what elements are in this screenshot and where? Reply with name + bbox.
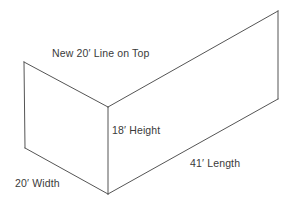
label-top-line: New 20′ Line on Top (52, 47, 149, 59)
label-height: 18′ Height (112, 124, 160, 136)
diagram-canvas: New 20′ Line on Top 18′ Height 41′ Lengt… (0, 0, 293, 208)
edge-left-top-diagonal (24, 62, 108, 107)
edge-left-front-vertical (24, 62, 25, 148)
label-width: 20′ Width (15, 177, 60, 189)
label-length: 41′ Length (190, 157, 240, 169)
edge-right-top-diagonal (108, 11, 278, 107)
edge-right-bottom-diagonal (108, 99, 278, 194)
